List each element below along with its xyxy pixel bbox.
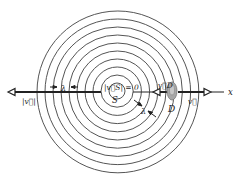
detector-velocity-label: v⃗D [158, 81, 173, 90]
diagram-canvas: λ λ |v⃗S| = 0 S v⃗D D x |v⃗| v⃗ [0, 0, 242, 181]
wavelength-label-right: λ [140, 107, 146, 116]
wavelength-label-left: λ [60, 84, 66, 93]
right-velocity-label: v⃗ [188, 97, 197, 106]
left-velocity-arrow [8, 89, 101, 96]
doppler-diagram: λ λ |v⃗S| = 0 S v⃗D D x |v⃗| v⃗ [0, 0, 242, 181]
left-velocity-label: |v⃗| [22, 97, 36, 106]
detector-label: D [167, 104, 175, 114]
source-label: S [112, 95, 118, 105]
right-velocity-arrow [178, 89, 224, 96]
source-velocity-label: |v⃗S| = 0 [104, 83, 139, 92]
x-axis-label: x [228, 87, 233, 97]
